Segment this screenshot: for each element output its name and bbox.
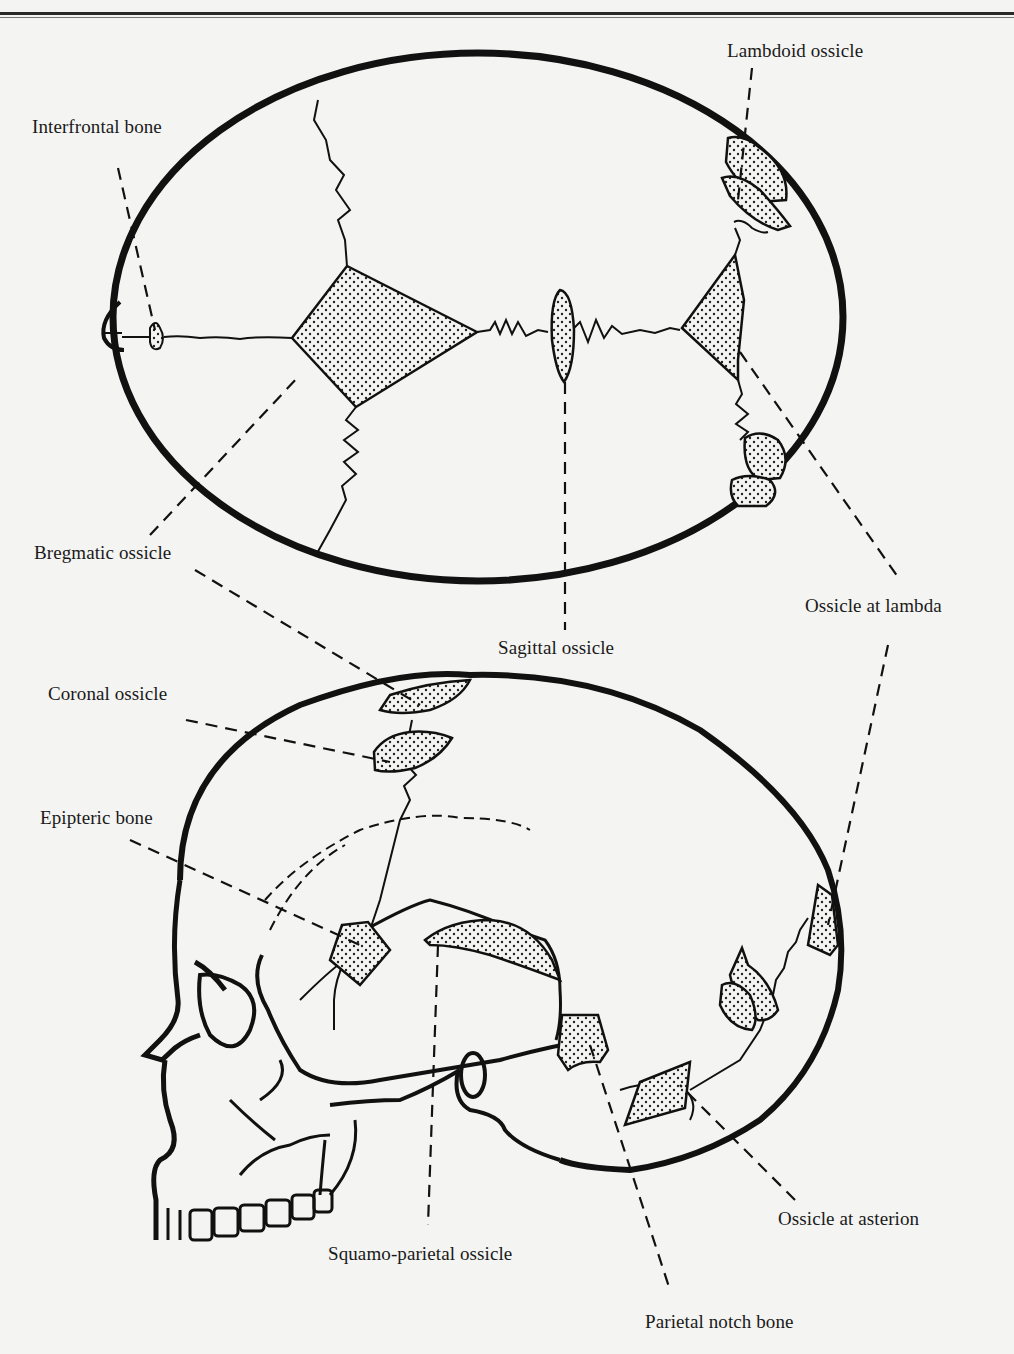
ossicle-at-lambda-shape (682, 255, 744, 380)
label-ossicle-at-asterion: Ossicle at asterion (778, 1208, 919, 1230)
teeth (156, 1190, 332, 1240)
label-ossicle-at-lambda: Ossicle at lambda (805, 595, 942, 617)
bregmatic-ossicle-lateral (380, 680, 470, 713)
lambdoid-ossicle-lower-b (731, 476, 775, 506)
parietal-notch-bone-shape (558, 1015, 608, 1070)
label-lambdoid-ossicle: Lambdoid ossicle (727, 40, 863, 62)
label-squamo-parietal-ossicle: Squamo-parietal ossicle (328, 1243, 512, 1265)
interfrontal-bone-shape (150, 323, 163, 349)
lateral-view (145, 674, 841, 1240)
leader-coronal (186, 720, 390, 762)
label-parietal-notch-bone: Parietal notch bone (645, 1311, 794, 1333)
superior-view (103, 53, 843, 581)
sagittal-ossicle-shape (552, 290, 574, 382)
coronal-ossicle-shape (374, 732, 452, 772)
bregmatic-ossicle-shape (292, 266, 477, 407)
label-interfrontal-bone: Interfrontal bone (32, 116, 162, 138)
lambdoid-ossicle-lower-a (745, 433, 786, 480)
ossicle-at-asterion-shape (625, 1062, 690, 1125)
squamo-parietal-ossicle-shape (425, 920, 560, 980)
leader-bregmatic-bottom (195, 570, 420, 705)
label-epipteric-bone: Epipteric bone (40, 807, 153, 829)
label-coronal-ossicle: Coronal ossicle (48, 683, 167, 705)
label-bregmatic-ossicle: Bregmatic ossicle (34, 542, 171, 564)
leader-lambda-bottom (828, 645, 888, 925)
ear-canal (461, 1053, 485, 1097)
skull-outline-lateral (180, 674, 841, 1170)
label-sagittal-ossicle: Sagittal ossicle (498, 637, 614, 659)
skull-diagram (0, 0, 1014, 1354)
orbit (199, 974, 254, 1046)
leader-epipteric (130, 840, 360, 945)
